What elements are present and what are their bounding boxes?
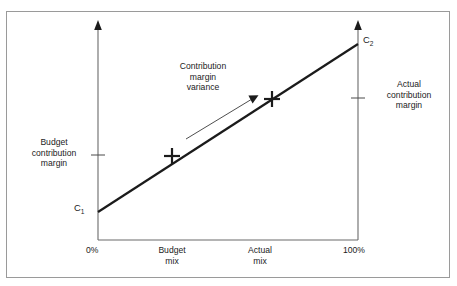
label-contribution-margin-variance: Contribution margin variance bbox=[160, 61, 246, 93]
x-tick-actual-line-2: mix bbox=[232, 256, 288, 267]
label-c1-text: C bbox=[74, 202, 81, 213]
variance-line-2: margin bbox=[160, 72, 246, 83]
marker-actual-mix bbox=[264, 91, 280, 107]
actual-margin-line-1: Actual bbox=[370, 79, 448, 90]
variance-line-1: Contribution bbox=[160, 61, 246, 72]
budget-margin-line-2: contribution bbox=[18, 148, 90, 159]
x-tick-budget-line-1: Budget bbox=[144, 245, 200, 256]
x-tick-label-100-percent: 100% bbox=[337, 245, 371, 256]
budget-margin-line-1: Budget bbox=[18, 137, 90, 148]
actual-margin-line-2: contribution bbox=[370, 90, 448, 101]
x-tick-budget-line-2: mix bbox=[144, 256, 200, 267]
right-axis-arrowhead-icon bbox=[354, 20, 362, 30]
variance-line-3: variance bbox=[160, 82, 246, 93]
label-c1-subscript: 1 bbox=[81, 208, 85, 215]
budget-margin-line-3: margin bbox=[18, 158, 90, 169]
actual-margin-line-3: margin bbox=[370, 100, 448, 111]
x-tick-label-actual-mix: Actual mix bbox=[232, 245, 288, 266]
label-c2-text: C bbox=[363, 34, 370, 45]
label-c2-subscript: 2 bbox=[370, 40, 374, 47]
label-actual-contribution-margin: Actual contribution margin bbox=[370, 79, 448, 111]
label-c2: C2 bbox=[363, 35, 373, 46]
label-budget-contribution-margin: Budget contribution margin bbox=[18, 137, 90, 169]
left-axis-arrowhead-icon bbox=[94, 20, 102, 30]
x-tick-label-0-percent: 0% bbox=[86, 245, 98, 256]
x-tick-actual-line-1: Actual bbox=[232, 245, 288, 256]
label-c1: C1 bbox=[74, 203, 84, 214]
figure-screenshot: C1 C2 Budget contribution margin Actual … bbox=[0, 0, 457, 286]
x-tick-label-budget-mix: Budget mix bbox=[144, 245, 200, 266]
variance-arrowhead-icon bbox=[248, 95, 258, 103]
